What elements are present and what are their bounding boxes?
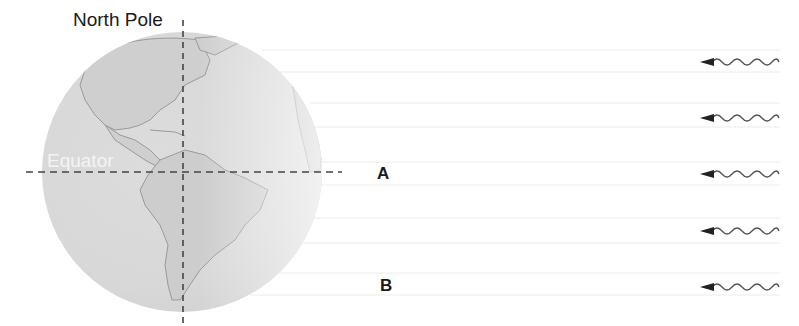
sun-ray-arrow (700, 227, 779, 235)
sun-ray-arrow (700, 170, 779, 178)
point-a-label: A (377, 164, 389, 184)
sun-ray-arrow (700, 283, 779, 291)
equator-label: Equator (47, 150, 114, 172)
point-b-label: B (380, 276, 392, 296)
globe (40, 30, 330, 320)
north-pole-label: North Pole (73, 9, 163, 31)
diagram-canvas (0, 0, 799, 326)
sun-rays (700, 58, 779, 291)
sun-ray-arrow (700, 114, 779, 122)
sun-ray-arrow (700, 58, 779, 66)
